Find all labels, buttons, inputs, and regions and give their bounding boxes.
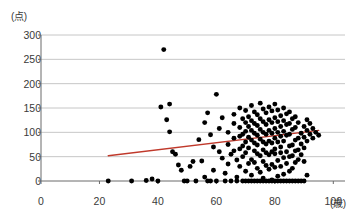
data-point	[284, 161, 289, 166]
data-point	[272, 115, 277, 120]
data-point	[264, 132, 269, 137]
data-point	[272, 126, 277, 131]
data-point	[208, 132, 213, 137]
data-point	[150, 177, 155, 182]
data-point	[246, 124, 251, 129]
data-point	[287, 109, 292, 114]
data-point	[305, 139, 310, 144]
data-point	[226, 130, 231, 135]
data-point	[161, 47, 166, 52]
data-point	[217, 126, 222, 131]
data-point	[240, 116, 245, 121]
data-point	[302, 179, 307, 184]
data-point	[307, 132, 312, 137]
data-point	[211, 168, 216, 173]
data-point	[231, 136, 236, 141]
data-point	[258, 153, 263, 158]
data-point	[261, 107, 266, 112]
data-point	[272, 136, 277, 141]
data-point	[275, 130, 280, 135]
data-point	[310, 126, 315, 131]
data-point	[129, 179, 134, 184]
data-point	[278, 150, 283, 155]
data-point	[281, 106, 286, 111]
data-point	[261, 159, 266, 164]
data-point	[275, 174, 280, 179]
data-point	[267, 105, 272, 110]
data-point	[316, 133, 321, 138]
data-point	[249, 173, 254, 178]
data-point	[278, 124, 283, 129]
data-point	[267, 167, 272, 172]
data-point	[287, 132, 292, 137]
data-point	[302, 124, 307, 129]
data-point	[199, 159, 204, 164]
data-point	[246, 114, 251, 119]
data-point	[196, 137, 201, 142]
data-point	[302, 135, 307, 140]
data-point	[158, 105, 163, 110]
data-point	[106, 179, 111, 184]
data-point	[275, 107, 280, 112]
data-point	[272, 102, 277, 107]
data-point	[287, 121, 292, 126]
data-point	[167, 129, 172, 134]
data-point	[231, 121, 236, 126]
data-point	[272, 165, 277, 170]
data-point	[296, 136, 301, 141]
data-point	[246, 161, 251, 166]
data-point	[243, 140, 248, 145]
data-point	[275, 119, 280, 124]
data-point	[188, 164, 193, 169]
data-point	[281, 118, 286, 123]
data-point	[278, 134, 283, 139]
data-point	[293, 125, 298, 130]
data-point	[269, 131, 274, 136]
data-point	[302, 159, 307, 164]
data-point	[231, 112, 236, 117]
data-point	[214, 179, 219, 184]
data-point	[269, 120, 274, 125]
data-point	[281, 172, 286, 177]
data-point	[226, 142, 231, 147]
data-point	[237, 125, 242, 130]
data-point	[310, 136, 315, 141]
data-point	[293, 114, 298, 119]
data-point	[299, 142, 304, 147]
data-point	[220, 115, 225, 120]
data-points	[106, 47, 321, 183]
data-point	[302, 145, 307, 150]
data-point	[278, 113, 283, 118]
data-point	[272, 151, 277, 156]
data-point	[305, 128, 310, 133]
data-point	[144, 178, 149, 183]
data-point	[255, 133, 260, 138]
data-point	[264, 110, 269, 115]
data-point	[185, 179, 190, 184]
data-point	[269, 141, 274, 146]
data-point	[264, 163, 269, 168]
data-point	[167, 102, 172, 107]
data-point	[275, 140, 280, 145]
data-point	[243, 108, 248, 113]
plot-area	[0, 0, 362, 214]
data-point	[272, 146, 277, 151]
data-point	[205, 110, 210, 115]
data-point	[258, 170, 263, 175]
data-point	[217, 149, 222, 154]
data-point	[299, 131, 304, 136]
data-point	[243, 129, 248, 134]
scatter-chart: (点) (歳) 050100150200250300 020406080100	[0, 0, 362, 214]
data-point	[307, 121, 312, 126]
data-point	[220, 156, 225, 161]
data-point	[231, 148, 236, 153]
data-point	[278, 164, 283, 169]
data-point	[278, 144, 283, 149]
data-point	[281, 129, 286, 134]
data-point	[284, 149, 289, 154]
data-point	[281, 155, 286, 160]
data-point	[240, 154, 245, 159]
data-point	[211, 144, 216, 149]
data-point	[179, 168, 184, 173]
data-point	[223, 171, 228, 176]
